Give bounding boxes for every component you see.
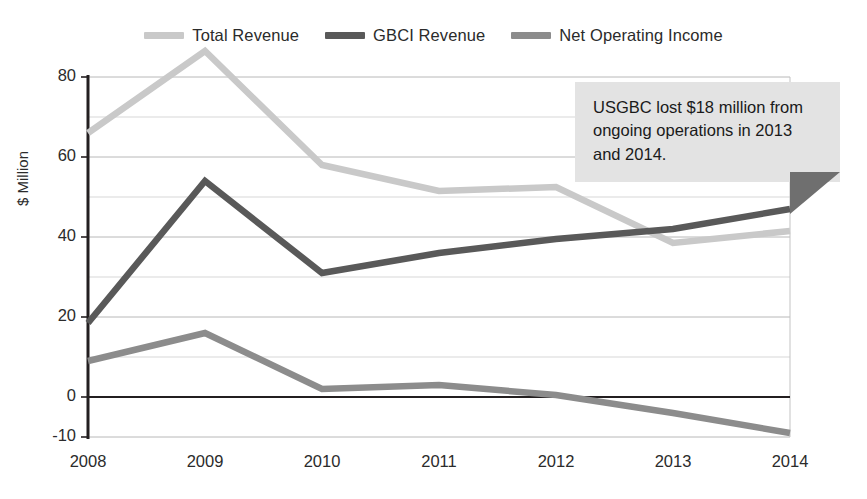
y-tick-label-20: 20 bbox=[20, 306, 76, 325]
x-tick-label-2012: 2012 bbox=[516, 452, 596, 471]
chart-svg bbox=[0, 0, 867, 499]
x-tick-label-2010: 2010 bbox=[282, 452, 362, 471]
x-tick-label-2011: 2011 bbox=[399, 452, 479, 471]
x-tick-label-2013: 2013 bbox=[633, 452, 713, 471]
series-line-net-operating-income bbox=[88, 333, 790, 433]
callout-box: USGBC lost $18 million from ongoing oper… bbox=[575, 82, 840, 182]
y-tick-label-0: 0 bbox=[20, 386, 76, 405]
x-tick-label-2014: 2014 bbox=[750, 452, 830, 471]
y-tick-label-60: 60 bbox=[20, 146, 76, 165]
y-tick-label-80: 80 bbox=[20, 66, 76, 85]
plot-area: $ Million 806040200-10 20082009201020112… bbox=[0, 0, 867, 499]
callout-tail-icon bbox=[790, 172, 840, 214]
x-tick-label-2009: 2009 bbox=[165, 452, 245, 471]
series-line-gbci-revenue bbox=[88, 181, 790, 323]
y-tick-label-40: 40 bbox=[20, 226, 76, 245]
x-tick-label-2008: 2008 bbox=[48, 452, 128, 471]
y-tick-label--10: -10 bbox=[20, 426, 76, 445]
chart-container: Total Revenue GBCI Revenue Net Operating… bbox=[0, 0, 867, 499]
